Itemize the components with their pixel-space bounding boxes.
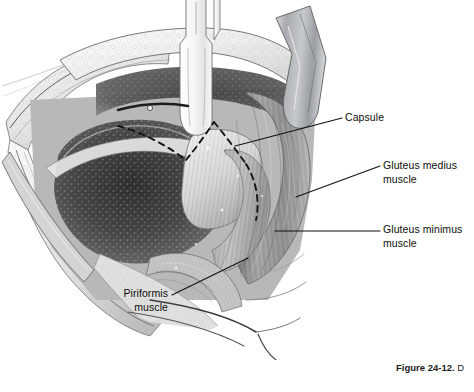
label-gluteus-medius-muscle: Gluteus medius muscle	[383, 159, 457, 186]
figure-page: Capsule Gluteus medius muscle Gluteus mi…	[0, 0, 474, 392]
figure-number: Figure 24-12.	[396, 362, 455, 373]
label-piriformis-muscle: Piriformis muscle	[92, 287, 168, 314]
label-capsule: Capsule	[345, 111, 384, 125]
figure-caption: Figure 24-12. D	[396, 362, 474, 392]
label-gluteus-minimus-muscle: Gluteus minimus muscle	[383, 223, 462, 250]
figure-caption-text: D	[455, 362, 465, 373]
surgical-anatomy-illustration	[0, 0, 340, 360]
